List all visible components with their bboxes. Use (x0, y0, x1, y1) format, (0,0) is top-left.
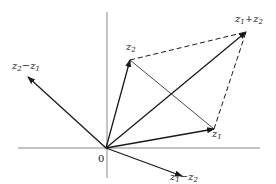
label-z2_minus_z1: z2−z1 (11, 60, 40, 73)
vectors (28, 32, 246, 176)
label-z1: z1 (211, 128, 222, 141)
vector-z2_minus_z1-arrow (28, 77, 106, 148)
vector-labels: z1z2z1+z2z2−z1z1−z2 (11, 13, 263, 184)
complex-vector-diagram: z1z2z1+z2z2−z1z1−z2 0 (0, 0, 276, 184)
label-z1_plus_z2: z1+z2 (234, 13, 263, 26)
thin-line (130, 60, 214, 129)
vector-z1-arrow (106, 129, 214, 148)
vector-z2-arrow (106, 60, 130, 148)
label-z1_minus_z2: z1−z2 (169, 171, 198, 184)
difference-segment (130, 60, 214, 129)
label-z2: z2 (125, 41, 136, 54)
dashed-line (214, 32, 246, 129)
origin-label: 0 (98, 153, 104, 164)
